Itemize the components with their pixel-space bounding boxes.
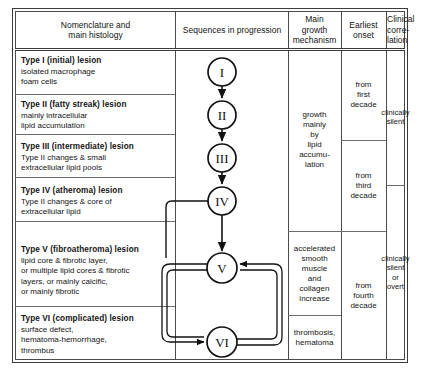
atherosclerosis-lesion-progression-figure: Nomenclature and main histology Sequence… <box>0 0 423 378</box>
header-onset: Earliest onset <box>342 12 385 48</box>
lesion-description-type-3: Type II changes & small extracellular li… <box>21 153 169 173</box>
lesion-description-type-4: Type II changes & core of extracellular … <box>21 197 169 217</box>
header-nomenclature: Nomenclature and main histology <box>18 12 173 48</box>
header-onset-label: Earliest onset <box>342 20 385 41</box>
lesion-title-type-6: Type VI (complicated) lesion <box>21 314 169 324</box>
onset-cell-first-decade: from first decade <box>342 49 385 140</box>
row-divider-c1-2 <box>15 134 175 135</box>
lesion-cell-type-2: Type II (fatty streak) lesion mainly int… <box>21 100 169 132</box>
column-divider-1 <box>175 11 176 360</box>
onset-cell-fourth-decade: from fourth decade <box>342 232 385 359</box>
row-divider-c1-5 <box>15 306 175 307</box>
lesion-description-type-2: mainly intracellular lipid accumulation <box>21 111 169 131</box>
lesion-cell-type-1: Type I (initial) lesion isolated macroph… <box>21 56 169 88</box>
header-mechanism: Main growth mechanism <box>289 12 340 48</box>
header-correlation: Clinical corre- lation <box>387 12 404 48</box>
onset-cell-third-decade: from third decade <box>342 141 385 231</box>
lesion-title-type-5: Type V (fibroatheroma) lesion <box>21 245 169 255</box>
mechanism-cell-thrombosis: thrombosis, hematoma <box>289 316 340 359</box>
correlation-cell-silent: clinically silent <box>387 49 404 185</box>
lesion-cell-type-3: Type III (intermediate) lesion Type II c… <box>21 142 169 174</box>
correlation-cell-silent-or-overt: clinically silent or overt <box>387 186 404 359</box>
lesion-description-type-5: lipid core & fibrotic layer, or multiple… <box>21 256 169 297</box>
lesion-cell-type-4: Type IV (atheroma) lesion Type II change… <box>21 186 169 218</box>
row-divider-c1-3 <box>15 177 175 178</box>
lesion-title-type-4: Type IV (atheroma) lesion <box>21 186 169 196</box>
row-divider-c1-1 <box>15 94 175 95</box>
header-mechanism-label: Main growth mechanism <box>289 14 340 46</box>
lesion-title-type-2: Type II (fatty streak) lesion <box>21 100 169 110</box>
lesion-description-type-1: isolated macrophage foam cells <box>21 67 169 87</box>
lesion-cell-type-5: Type V (fibroatheroma) lesion lipid core… <box>21 245 169 297</box>
mechanism-cell-lipid-accumulation: growth mainly by lipid accumu- lation <box>289 49 340 231</box>
lesion-description-type-6: surface defect, hematoma-hemorrhage, thr… <box>21 325 169 356</box>
lesion-cell-type-6: Type VI (complicated) lesion surface def… <box>21 314 169 356</box>
header-sequences: Sequences in progression <box>177 12 287 48</box>
mechanism-cell-smooth-muscle: accelerated smooth muscle and collagen i… <box>289 232 340 315</box>
header-sequences-label: Sequences in progression <box>177 25 287 36</box>
header-nomenclature-label: Nomenclature and main histology <box>18 20 173 41</box>
lesion-title-type-3: Type III (intermediate) lesion <box>21 142 169 152</box>
lesion-title-type-1: Type I (initial) lesion <box>21 56 169 66</box>
header-correlation-label: Clinical corre- lation <box>387 14 404 46</box>
row-divider-c1-4 <box>15 221 175 222</box>
